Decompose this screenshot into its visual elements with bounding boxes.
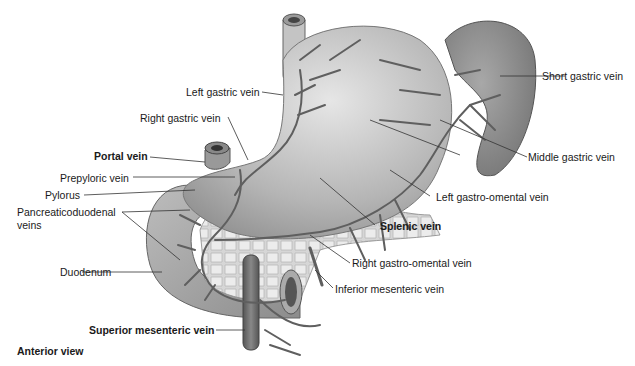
label-short-gastric-vein: Short gastric vein — [542, 70, 623, 82]
label-prepyloric-vein: Prepyloric vein — [60, 172, 129, 184]
label-right-gastro-omental-vein: Right gastro-omental vein — [352, 257, 472, 269]
jejunum-cut-shape — [280, 270, 302, 314]
label-right-gastric-vein: Right gastric vein — [140, 112, 221, 124]
stomach-shape — [183, 26, 451, 239]
label-inferior-mesenteric-vein: Inferior mesenteric vein — [335, 283, 444, 295]
label-portal-vein: Portal vein — [94, 150, 148, 162]
label-middle-gastric-vein: Middle gastric vein — [528, 151, 615, 163]
label-splenic-vein: Splenic vein — [380, 220, 441, 232]
label-pancreaticoduodenal-veins-line1: Pancreaticoduodenal — [17, 206, 116, 218]
view-caption: Anterior view — [17, 345, 84, 357]
label-pancreaticoduodenal-veins-line2: veins — [17, 219, 42, 231]
label-duodenum: Duodenum — [60, 266, 111, 278]
label-pylorus: Pylorus — [45, 189, 80, 201]
label-superior-mesenteric-vein: Superior mesenteric vein — [89, 324, 214, 336]
label-left-gastro-omental-vein: Left gastro-omental vein — [436, 191, 549, 203]
portal-vein-shape — [205, 142, 230, 169]
label-left-gastric-vein: Left gastric vein — [186, 86, 260, 98]
